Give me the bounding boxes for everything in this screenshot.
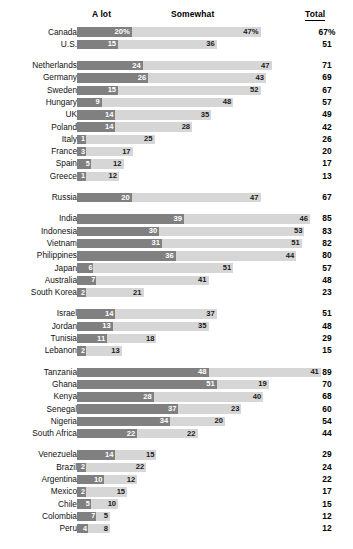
bar-segment-somewhat: 20 bbox=[170, 417, 225, 426]
bar-value-somewhat: 48 bbox=[223, 97, 231, 107]
total-value: 85 bbox=[307, 213, 347, 224]
country-label: Kenya bbox=[53, 391, 77, 402]
bar-value-a-lot: 2 bbox=[81, 288, 85, 298]
country-label: Germany bbox=[43, 72, 77, 83]
chart-row: Colombia7512 bbox=[0, 510, 353, 522]
bar-segment-somewhat: 28 bbox=[115, 122, 192, 131]
chart-row: Nigeria342054 bbox=[0, 415, 353, 427]
country-label: Netherlands bbox=[32, 60, 77, 71]
chart-row: Mexico21517 bbox=[0, 486, 353, 498]
bar-value-somewhat: 47 bbox=[261, 61, 269, 71]
bar-value-somewhat: 37 bbox=[206, 309, 214, 319]
bar-track: 3946 bbox=[77, 214, 310, 223]
country-label: U.S. bbox=[61, 39, 77, 50]
chart-row: Argentina101222 bbox=[0, 474, 353, 486]
bar-track: 4841 bbox=[77, 368, 321, 377]
bar-track: 1437 bbox=[77, 309, 217, 318]
bar-value-somewhat: 23 bbox=[231, 404, 239, 414]
bar-track: 2447 bbox=[77, 61, 272, 70]
bar-track: 1415 bbox=[77, 450, 156, 459]
bar-segment-somewhat: 5 bbox=[96, 512, 110, 521]
bar-value-somewhat: 47 bbox=[250, 193, 258, 203]
bar-value-a-lot: 14 bbox=[105, 450, 113, 460]
bar-segment-a-lot: 2 bbox=[77, 463, 86, 472]
total-value: 67 bbox=[307, 85, 347, 96]
bar-value-somewhat: 35 bbox=[201, 110, 209, 120]
bar-value-somewhat: 19 bbox=[258, 379, 266, 389]
bar-segment-somewhat: 51 bbox=[162, 239, 302, 248]
bar-value-somewhat: 41 bbox=[198, 275, 206, 285]
bar-value-a-lot: 1 bbox=[81, 171, 85, 181]
bar-segment-a-lot: 1 bbox=[77, 172, 86, 181]
bar-track: 1536 bbox=[77, 40, 217, 49]
chart-row: Italy12526 bbox=[0, 133, 353, 145]
bar-segment-somewhat: 12 bbox=[104, 475, 137, 484]
total-value: 22 bbox=[307, 474, 347, 485]
bar-value-a-lot: 5 bbox=[86, 159, 90, 169]
bar-segment-somewhat: 37 bbox=[115, 309, 216, 318]
bar-segment-somewhat: 53 bbox=[159, 227, 304, 236]
total-value: 60 bbox=[307, 404, 347, 415]
country-label: Indonesia bbox=[41, 226, 77, 237]
bar-segment-a-lot: 14 bbox=[77, 122, 115, 131]
chart-row: Ghana511970 bbox=[0, 378, 353, 390]
bar-segment-somewhat: 23 bbox=[178, 404, 241, 413]
chart-row: Indonesia305383 bbox=[0, 225, 353, 237]
total-value: 54 bbox=[307, 416, 347, 427]
bar-value-somewhat: 10 bbox=[108, 499, 116, 509]
bar-segment-a-lot: 11 bbox=[77, 334, 107, 343]
bar-segment-a-lot: 3 bbox=[77, 147, 86, 156]
total-value: 70 bbox=[307, 379, 347, 390]
bar-segment-a-lot: 5 bbox=[77, 499, 91, 508]
chart-row: Hungary94857 bbox=[0, 96, 353, 108]
bar-value-a-lot: 24 bbox=[132, 61, 140, 71]
bar-track: 221 bbox=[77, 288, 144, 297]
total-value: 67% bbox=[307, 27, 347, 38]
bar-value-somewhat: 51 bbox=[291, 238, 299, 248]
bar-segment-a-lot: 34 bbox=[77, 417, 170, 426]
country-label: Russia bbox=[52, 192, 77, 203]
country-label: South Korea bbox=[31, 287, 77, 298]
bar-segment-a-lot: 31 bbox=[77, 239, 162, 248]
total-value: 17 bbox=[307, 486, 347, 497]
bar-segment-a-lot: 20 bbox=[77, 193, 132, 202]
country-label: Italy bbox=[62, 134, 77, 145]
bar-segment-somewhat: 52 bbox=[118, 86, 260, 95]
bar-segment-a-lot: 14 bbox=[77, 450, 115, 459]
total-value: 24 bbox=[307, 462, 347, 473]
bar-segment-somewhat: 35 bbox=[113, 322, 209, 331]
bar-segment-a-lot: 1 bbox=[77, 135, 86, 144]
bar-segment-a-lot: 22 bbox=[77, 429, 137, 438]
total-value: 83 bbox=[307, 226, 347, 237]
bar-segment-a-lot: 48 bbox=[77, 368, 209, 377]
bar-value-a-lot: 48 bbox=[198, 367, 206, 377]
country-label: Japan bbox=[54, 263, 77, 274]
total-value: 80 bbox=[307, 250, 347, 261]
bar-segment-somewhat: 35 bbox=[115, 110, 211, 119]
bar-value-somewhat: 53 bbox=[294, 226, 302, 236]
chart-rows: Canada20%47%67%U.S.153651Netherlands2447… bbox=[0, 26, 353, 535]
bar-segment-somewhat: 19 bbox=[217, 380, 269, 389]
bar-value-somewhat: 44 bbox=[286, 251, 294, 261]
country-label: South Africa bbox=[32, 428, 77, 439]
bar-track: 510 bbox=[77, 499, 118, 508]
total-value: 29 bbox=[307, 333, 347, 344]
bar-track: 948 bbox=[77, 98, 233, 107]
chart-row: Netherlands244771 bbox=[0, 60, 353, 72]
country-label: Senegal bbox=[47, 404, 77, 415]
bar-segment-somewhat: 22 bbox=[137, 429, 197, 438]
country-label: Argentina bbox=[41, 474, 77, 485]
bar-track: 5119 bbox=[77, 380, 269, 389]
total-value: 49 bbox=[307, 109, 347, 120]
chart-row: Vietnam315182 bbox=[0, 237, 353, 249]
country-label: Lebanon bbox=[45, 345, 77, 356]
country-label: Hungary bbox=[46, 97, 77, 108]
bar-value-a-lot: 28 bbox=[143, 392, 151, 402]
chart-row: Jordan133548 bbox=[0, 320, 353, 332]
chart-row: UK143549 bbox=[0, 109, 353, 121]
country-label: Tunisia bbox=[51, 333, 77, 344]
legend-label-somewhat: Somewhat bbox=[171, 9, 214, 19]
bar-track: 2643 bbox=[77, 73, 266, 82]
bar-segment-somewhat: 18 bbox=[107, 334, 156, 343]
bar-segment-a-lot: 4 bbox=[77, 524, 88, 533]
